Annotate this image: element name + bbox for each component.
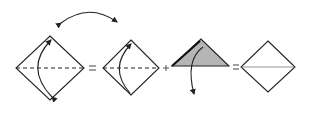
step-4-diamond — [241, 41, 295, 92]
origami-diagram — [0, 0, 315, 114]
plus-operator — [163, 65, 169, 71]
step-2-diamond — [103, 40, 159, 95]
equals-operator — [89, 66, 96, 70]
swap-arrow-icon — [61, 12, 117, 23]
step-1-diamond — [16, 36, 84, 100]
step-3-triangle — [172, 39, 229, 94]
equals-operator — [233, 65, 239, 69]
